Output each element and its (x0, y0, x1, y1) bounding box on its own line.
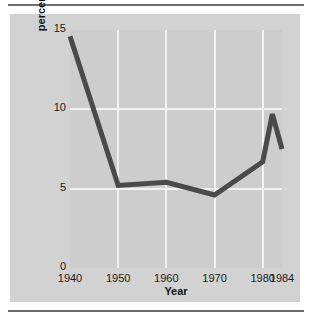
top-divider-rule (8, 4, 304, 6)
unemployment-line (70, 36, 282, 195)
plot-area (70, 30, 282, 268)
x-tick-label-1970: 1970 (202, 272, 226, 284)
x-tick-label-1950: 1950 (106, 272, 130, 284)
y-axis-title-line-2: percentage of civilian labor force (35, 0, 48, 31)
x-axis-title: Year (70, 285, 282, 297)
y-tick-label-15: 15 (54, 23, 66, 34)
x-tick-label-1960: 1960 (154, 272, 178, 284)
y-axis-title: Unemployment as percentage of civilian l… (18, 0, 52, 64)
y-axis-title-line-1: Unemployment as (22, 0, 35, 31)
y-axis-tick-labels: 051015 (34, 28, 66, 268)
bottom-divider-rule (8, 310, 304, 312)
x-tick-label-1984: 1984 (270, 272, 294, 284)
y-tick-label-5: 5 (60, 182, 66, 193)
y-tick-label-10: 10 (54, 102, 66, 113)
y-tick-label-0: 0 (60, 261, 66, 272)
x-tick-label-1940: 1940 (58, 272, 82, 284)
chart-figure-panel: 051015 194019501960197019801984 Year Une… (10, 14, 300, 302)
series-line-svg (70, 30, 282, 268)
